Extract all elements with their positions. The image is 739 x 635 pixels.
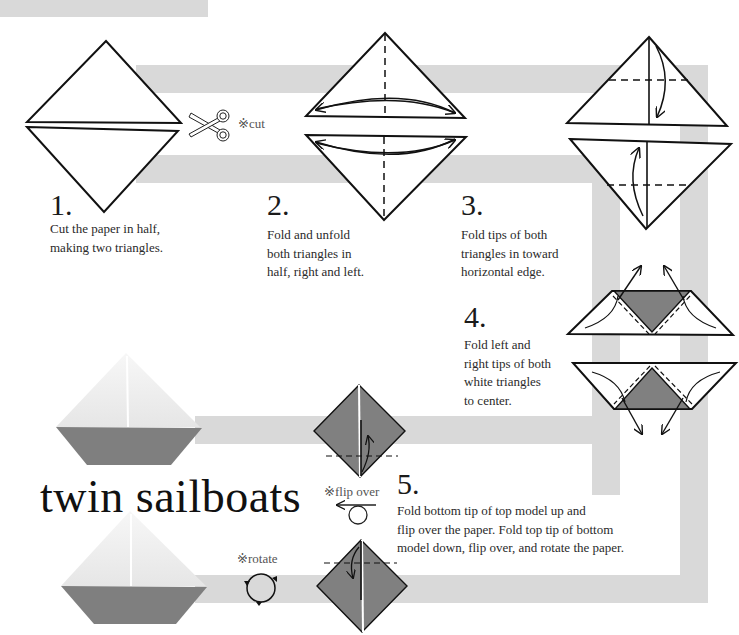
step-2-text: Fold and unfold both triangles in half, … — [267, 226, 364, 282]
scissors-icon — [189, 110, 229, 141]
sailboat-top — [56, 353, 202, 465]
step-1-text: Cut the paper in half, making two triang… — [50, 220, 163, 257]
step-5-text: Fold bottom tip of top model up and flip… — [397, 502, 624, 558]
sailboat-bottom — [61, 511, 207, 624]
step-3-text: Fold tips of both triangles in toward ho… — [461, 226, 558, 282]
step-4-number: 4. — [464, 302, 487, 332]
cut-note: ※cut — [238, 116, 265, 132]
step-2-number: 2. — [267, 190, 290, 220]
step-1-number: 1. — [50, 190, 73, 220]
step1-diagram — [27, 41, 181, 212]
step5-top-diagram — [314, 385, 405, 477]
step3-diagram — [567, 37, 731, 229]
step-3-number: 3. — [461, 190, 484, 220]
step-5-number: 5. — [397, 469, 420, 499]
step2-diagram — [306, 33, 466, 220]
step-4-text: Fold left and right tips of both white t… — [464, 336, 551, 410]
flip-over-icon — [337, 505, 376, 524]
page-title: twin sailboats — [40, 474, 301, 520]
diagram-canvas — [0, 0, 739, 635]
rotate-note: ※rotate — [237, 551, 278, 567]
step5-bottom-diagram — [317, 540, 407, 632]
step4-diagram — [568, 266, 736, 434]
flip-over-note: ※flip over — [324, 484, 379, 500]
rotate-icon — [244, 574, 277, 606]
